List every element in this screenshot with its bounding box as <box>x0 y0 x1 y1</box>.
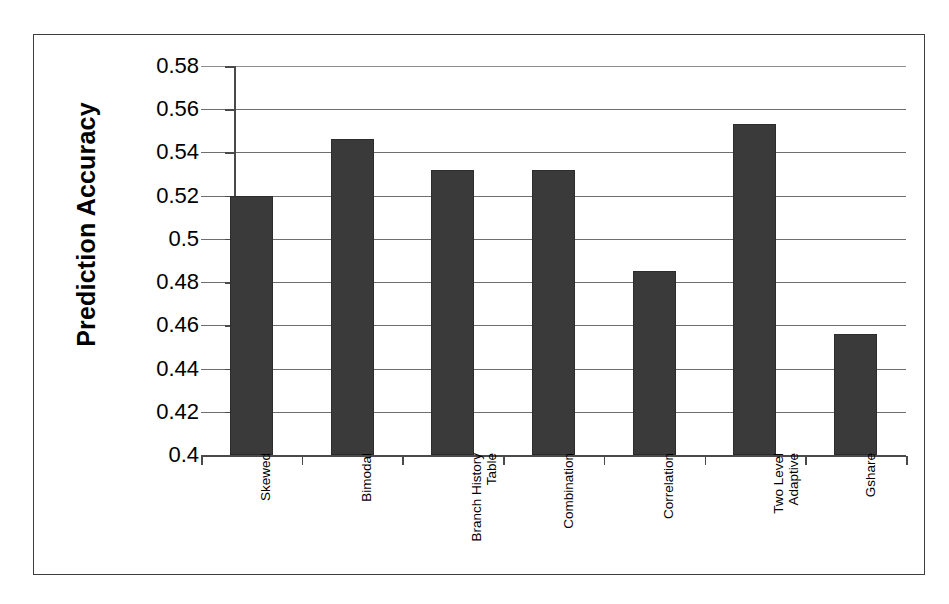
chart-figure: Prediction Accuracy 0.580.560.540.520.50… <box>0 0 949 604</box>
x-axis-tick-labels: SkewedBimodalBranch History TableCombina… <box>201 459 906 599</box>
bar <box>633 271 676 455</box>
gridline <box>201 109 906 110</box>
x-axis-tick-label: Bimodal <box>359 453 375 593</box>
y-axis-tick-labels: 0.580.560.540.520.50.480.460.440.420.4 <box>89 66 199 455</box>
x-axis-tick-label: Combination <box>561 453 577 593</box>
bar <box>431 170 474 455</box>
x-axis-tick-label: Branch History Table <box>469 453 485 593</box>
y-axis-tick-mark <box>225 66 235 68</box>
y-axis-tick-mark <box>225 109 235 111</box>
bar <box>834 334 877 455</box>
y-axis-tick-label: 0.42 <box>89 401 199 423</box>
chart-frame: Prediction Accuracy 0.580.560.540.520.50… <box>33 34 925 575</box>
y-axis-tick-label: 0.5 <box>89 228 199 250</box>
y-axis-tick-label: 0.58 <box>89 55 199 77</box>
y-axis-tick-label: 0.48 <box>89 271 199 293</box>
bar <box>331 139 374 455</box>
y-axis-tick-label: 0.52 <box>89 185 199 207</box>
bar <box>230 196 273 455</box>
gridline <box>201 152 906 153</box>
x-axis-tick-label: Correlation <box>661 453 677 593</box>
y-axis-tick-label: 0.54 <box>89 141 199 163</box>
y-axis-tick-label: 0.56 <box>89 98 199 120</box>
gridline <box>201 66 906 67</box>
x-axis-tick-mark <box>906 456 908 465</box>
x-axis-tick-label: Gshare <box>863 453 879 593</box>
y-axis-tick-label: 0.4 <box>89 444 199 466</box>
plot-area <box>201 66 906 455</box>
y-axis-tick-label: 0.44 <box>89 358 199 380</box>
bar <box>733 124 776 455</box>
x-axis-tick-label: Skewed <box>258 453 274 593</box>
y-axis-tick-label: 0.46 <box>89 314 199 336</box>
x-axis-tick-label: Two Level Adaptive <box>771 453 787 593</box>
bar <box>532 170 575 455</box>
y-axis-tick-mark <box>225 152 235 154</box>
